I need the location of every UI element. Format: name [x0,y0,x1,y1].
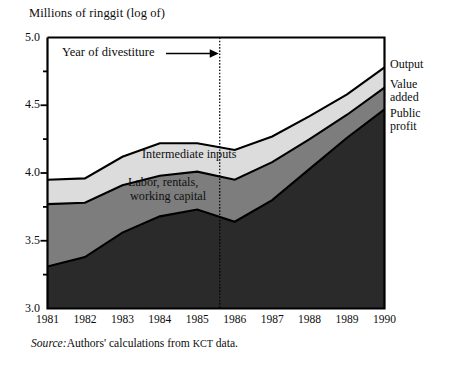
source-acronym: KCT [193,338,213,349]
source-suffix: data. [213,337,238,350]
y-tick-label-4.0: 4.0 [10,165,40,180]
x-tick-label-1982: 1982 [73,313,96,325]
source-note: Source:Authors' calculations from KCT da… [31,337,238,350]
y-tick-label-3.5: 3.5 [10,233,40,248]
legend-label-output: Output [390,58,423,71]
x-tick-label-1990: 1990 [373,313,396,325]
annotation-year-of-divestiture: Year of divestiture [62,45,154,60]
legend-label-public-profit: Public profit [390,107,421,132]
y-tick-label-4.5: 4.5 [10,97,40,112]
band-label-labor-line2: working capital [130,190,206,204]
legend-public-profit-line2: profit [390,119,417,133]
x-tick-label-1981: 1981 [36,313,59,325]
x-tick-label-1984: 1984 [148,313,171,325]
x-tick-label-1987: 1987 [261,313,284,325]
x-tick-label-1988: 1988 [298,313,321,325]
x-tick-label-1985: 1985 [186,313,209,325]
source-label: Source: [31,337,67,350]
figure-container: Millions of ringgit (log of) 3 [0,0,449,365]
x-tick-label-1983: 1983 [111,313,134,325]
band-label-labor-line1: Labor, rentals, [128,176,198,190]
chart-bands [48,38,385,309]
legend-label-value-added: Value added [390,78,419,103]
legend-value-added-line2: added [390,90,419,104]
source-text: Authors' calculations from [67,337,193,350]
x-tick-label-1986: 1986 [223,313,246,325]
y-tick-label-5.0: 5.0 [10,30,40,45]
x-tick-label-1989: 1989 [336,313,359,325]
band-label-intermediate-inputs: Intermediate inputs [142,148,236,162]
